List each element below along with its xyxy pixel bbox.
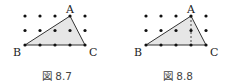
grid-dot [174, 43, 177, 46]
vertex-label-a: A [186, 3, 196, 16]
figure-8-8: A B C 図 8.8 [134, 3, 218, 82]
grid-dot [53, 43, 56, 46]
figure-caption: 図 8.7 [42, 70, 72, 82]
grid-dot [68, 29, 71, 32]
grid-dot [204, 43, 207, 46]
vertex-label-c: C [89, 46, 97, 59]
grid-dot [83, 43, 86, 46]
grid-dot [23, 43, 26, 46]
grid-dot [144, 43, 147, 46]
grid-dot [53, 29, 56, 32]
grid-dot [38, 14, 41, 17]
vertex-label-b: B [134, 46, 142, 59]
grid-dot [174, 29, 177, 32]
grid-dot [204, 14, 207, 17]
grid-dot [159, 14, 162, 17]
grid-dot [144, 29, 147, 32]
grid-dot [68, 43, 71, 46]
grid-dot [38, 29, 41, 32]
vertex-label-a: A [65, 3, 75, 16]
grid-dot [159, 29, 162, 32]
vertex-label-c: C [210, 46, 218, 59]
grid-dot [144, 14, 147, 17]
grid-dot [159, 43, 162, 46]
vertex-label-b: B [13, 46, 21, 59]
grid-dot [53, 14, 56, 17]
grid-dot [174, 14, 177, 17]
grid-dot [23, 29, 26, 32]
grid-dot [38, 43, 41, 46]
grid-dot [83, 14, 86, 17]
grid-dot [189, 29, 192, 32]
grid-dot [83, 29, 86, 32]
figure-caption: 図 8.8 [163, 70, 193, 82]
grid-dot [189, 43, 192, 46]
figure-8-7: A B C 図 8.7 [13, 3, 97, 82]
grid-dot [23, 14, 26, 17]
diagram-canvas: A B C 図 8.7 A B C 図 8.8 [0, 0, 231, 84]
grid-dot [204, 29, 207, 32]
